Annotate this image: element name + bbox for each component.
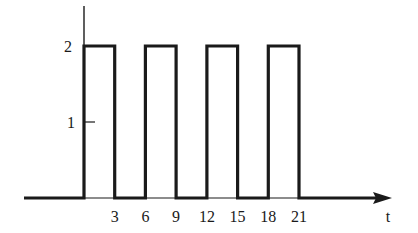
x-tick-label-3: 3 bbox=[111, 208, 119, 225]
x-tick-label-21: 21 bbox=[291, 208, 307, 225]
x-tick-label-15: 15 bbox=[230, 208, 246, 225]
y-tick-label-2: 2 bbox=[64, 38, 72, 55]
x-tick-label-18: 18 bbox=[260, 208, 276, 225]
x-axis-label: t bbox=[386, 208, 391, 225]
x-tick-label-12: 12 bbox=[199, 208, 215, 225]
x-tick-label-6: 6 bbox=[141, 208, 149, 225]
x-tick-labels: 36912151821 bbox=[111, 208, 307, 225]
pulse-train-chart: 2 1 36912151821 t bbox=[0, 0, 418, 233]
signal-line bbox=[24, 46, 376, 198]
x-tick-label-9: 9 bbox=[172, 208, 180, 225]
y-tick-label-1: 1 bbox=[67, 114, 75, 131]
